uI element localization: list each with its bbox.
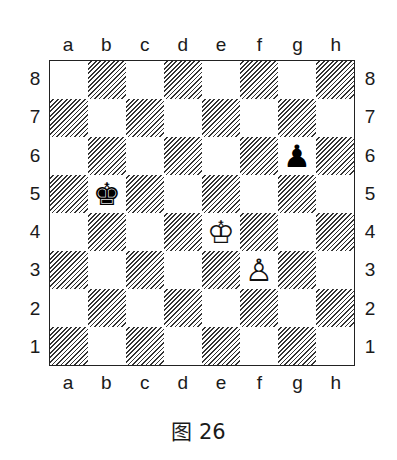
piece-glyph: ♙ xyxy=(245,255,273,286)
square-g6: ♟ xyxy=(278,137,316,175)
rank-label-4: 4 xyxy=(25,221,45,243)
figure-caption: 图 26 xyxy=(0,415,397,445)
rank-label-7: 7 xyxy=(360,106,380,128)
square-a4 xyxy=(50,213,88,251)
square-a8 xyxy=(50,61,88,99)
rank-label-7: 7 xyxy=(25,106,45,128)
square-h3 xyxy=(316,251,354,289)
square-a5 xyxy=(50,175,88,213)
square-g8 xyxy=(278,61,316,99)
square-e2 xyxy=(202,289,240,327)
rank-label-4: 4 xyxy=(360,221,380,243)
rank-label-1: 1 xyxy=(25,336,45,358)
square-b5: ♚ xyxy=(88,175,126,213)
square-b4 xyxy=(88,213,126,251)
square-e4: ♔ xyxy=(202,213,240,251)
rank-label-8: 8 xyxy=(25,68,45,90)
file-label-g: g xyxy=(279,34,317,56)
chess-board: ♟♚♔♙ xyxy=(49,60,355,366)
square-a6 xyxy=(50,137,88,175)
square-f8 xyxy=(240,61,278,99)
white-pawn-icon: ♙ xyxy=(240,251,278,289)
file-label-b: b xyxy=(87,372,125,394)
square-c6 xyxy=(126,137,164,175)
square-g2 xyxy=(278,289,316,327)
square-b7 xyxy=(88,99,126,137)
black-pawn-icon: ♟ xyxy=(278,137,316,175)
file-label-h: h xyxy=(317,372,355,394)
file-label-c: c xyxy=(126,34,164,56)
file-label-e: e xyxy=(202,34,240,56)
square-d4 xyxy=(164,213,202,251)
square-d7 xyxy=(164,99,202,137)
square-a1 xyxy=(50,327,88,365)
piece-glyph: ♟ xyxy=(283,141,311,172)
square-e7 xyxy=(202,99,240,137)
square-f1 xyxy=(240,327,278,365)
square-g7 xyxy=(278,99,316,137)
square-c7 xyxy=(126,99,164,137)
square-g4 xyxy=(278,213,316,251)
square-e1 xyxy=(202,327,240,365)
square-f2 xyxy=(240,289,278,327)
square-h1 xyxy=(316,327,354,365)
square-h6 xyxy=(316,137,354,175)
file-label-a: a xyxy=(49,34,87,56)
square-a3 xyxy=(50,251,88,289)
board-grid: ♟♚♔♙ xyxy=(50,61,354,365)
square-d6 xyxy=(164,137,202,175)
file-label-d: d xyxy=(164,34,202,56)
file-label-g: g xyxy=(279,372,317,394)
file-label-f: f xyxy=(240,372,278,394)
file-label-f: f xyxy=(240,34,278,56)
square-b1 xyxy=(88,327,126,365)
file-label-b: b xyxy=(87,34,125,56)
square-c3 xyxy=(126,251,164,289)
rank-label-1: 1 xyxy=(360,336,380,358)
square-f5 xyxy=(240,175,278,213)
piece-glyph: ♔ xyxy=(207,217,235,248)
rank-label-6: 6 xyxy=(360,145,380,167)
rank-label-6: 6 xyxy=(25,145,45,167)
black-king-icon: ♚ xyxy=(88,175,126,213)
square-g3 xyxy=(278,251,316,289)
square-h8 xyxy=(316,61,354,99)
square-f4 xyxy=(240,213,278,251)
rank-label-8: 8 xyxy=(360,68,380,90)
file-label-e: e xyxy=(202,372,240,394)
square-g5 xyxy=(278,175,316,213)
rank-label-5: 5 xyxy=(25,183,45,205)
square-d8 xyxy=(164,61,202,99)
file-label-d: d xyxy=(164,372,202,394)
square-c1 xyxy=(126,327,164,365)
white-king-icon: ♔ xyxy=(202,213,240,251)
square-a2 xyxy=(50,289,88,327)
rank-label-2: 2 xyxy=(25,298,45,320)
square-d1 xyxy=(164,327,202,365)
square-b8 xyxy=(88,61,126,99)
square-e6 xyxy=(202,137,240,175)
square-a7 xyxy=(50,99,88,137)
file-label-c: c xyxy=(126,372,164,394)
square-f7 xyxy=(240,99,278,137)
square-c4 xyxy=(126,213,164,251)
square-e5 xyxy=(202,175,240,213)
square-d2 xyxy=(164,289,202,327)
rank-label-5: 5 xyxy=(360,183,380,205)
square-h5 xyxy=(316,175,354,213)
square-h7 xyxy=(316,99,354,137)
square-d3 xyxy=(164,251,202,289)
square-c5 xyxy=(126,175,164,213)
square-e8 xyxy=(202,61,240,99)
square-g1 xyxy=(278,327,316,365)
rank-label-3: 3 xyxy=(25,259,45,281)
square-f3: ♙ xyxy=(240,251,278,289)
rank-label-2: 2 xyxy=(360,298,380,320)
square-h2 xyxy=(316,289,354,327)
square-h4 xyxy=(316,213,354,251)
piece-glyph: ♚ xyxy=(93,179,121,210)
file-label-h: h xyxy=(317,34,355,56)
square-c2 xyxy=(126,289,164,327)
file-label-a: a xyxy=(49,372,87,394)
square-c8 xyxy=(126,61,164,99)
